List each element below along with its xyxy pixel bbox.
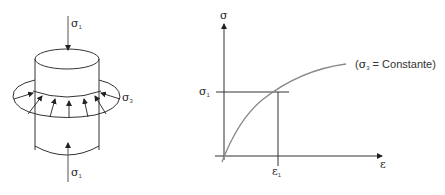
diagram-canvas: σ1 σ1 σ3 σ ε σ1 ε1 (σ3 = Constante) — [0, 0, 445, 195]
epsilon1-marker-label: ε1 — [272, 165, 282, 178]
bottom-load-label: σ1 — [71, 166, 83, 179]
top-load-label: σ1 — [71, 17, 83, 30]
sigma1-marker-label: σ1 — [199, 85, 211, 98]
guide-lines — [216, 92, 289, 166]
strain-axis-label: ε — [380, 158, 386, 171]
stress-strain-curve — [222, 64, 346, 162]
confining-pressure-label: σ3 — [122, 91, 134, 104]
curve-label: (σ3 = Constante) — [355, 58, 436, 71]
cylinder-specimen — [35, 49, 99, 155]
stress-axis-label: σ — [220, 9, 228, 22]
confining-ring — [13, 80, 120, 118]
